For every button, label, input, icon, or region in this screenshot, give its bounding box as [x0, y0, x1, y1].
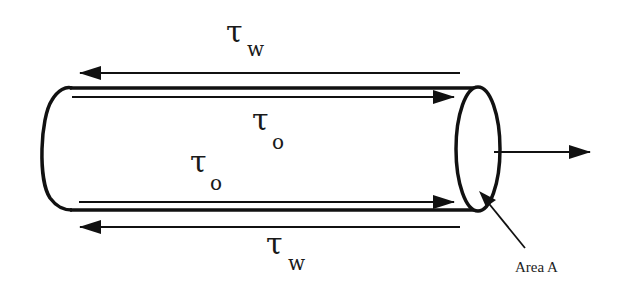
- cylinder-right-end-ellipse: [456, 87, 500, 211]
- tau-o-top-symbol: τ: [252, 102, 269, 137]
- cylinder-left-cap: [42, 88, 72, 211]
- area-label: Area A: [515, 259, 558, 275]
- area-pointer-line: [486, 200, 525, 248]
- tau-o-bottom-symbol: τ: [190, 144, 207, 179]
- tau-w-bottom-subscript: w: [288, 251, 305, 275]
- tau-o-bottom-subscript: o: [210, 171, 222, 195]
- cylinder: [42, 87, 500, 211]
- pipe-shear-diagram: τ w τ o τ o τ w Area A: [0, 0, 630, 294]
- tau-w-bottom-symbol: τ: [266, 226, 283, 261]
- tau-o-top-subscript: o: [272, 130, 284, 154]
- tau-w-top-subscript: w: [247, 37, 264, 61]
- tau-w-top-symbol: τ: [226, 14, 243, 49]
